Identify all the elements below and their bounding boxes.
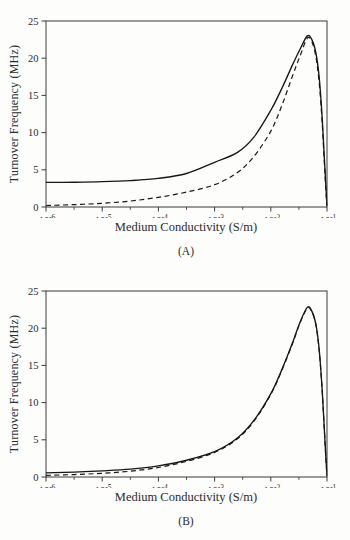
- dashed-curve: [46, 308, 327, 477]
- y-axis-label: Turnover Frequency (MHz): [7, 45, 22, 183]
- plot-border: [46, 291, 327, 477]
- x-tick-label: 10-6: [39, 483, 56, 489]
- x-tick-label: 10-3: [207, 483, 224, 489]
- x-tick-label: 10-1: [320, 483, 337, 489]
- x-tick-label: 10-3: [207, 213, 224, 219]
- x-tick-label: 10-4: [151, 483, 168, 489]
- y-tick-label: 10: [28, 127, 39, 138]
- figure-caption: (B): [178, 515, 193, 527]
- y-tick-label: 25: [28, 16, 39, 27]
- plot-border: [46, 21, 327, 207]
- y-tick-label: 20: [28, 323, 39, 334]
- x-tick-label: 10-2: [263, 483, 280, 489]
- figure-caption: (A): [178, 245, 194, 257]
- x-tick-label: 10-1: [320, 213, 337, 219]
- x-tick-label: 10-5: [95, 483, 112, 489]
- solid-curve: [46, 35, 327, 205]
- figure-a: 051015202510-610-510-410-310-210-1 Turno…: [0, 0, 350, 270]
- x-tick-label: 10-4: [151, 213, 168, 219]
- dashed-curve: [46, 37, 327, 206]
- x-axis-label: Medium Conductivity (S/m): [115, 490, 257, 505]
- y-tick-label: 5: [33, 164, 38, 175]
- chart-plot-b: 051015202510-610-510-410-310-210-1: [0, 270, 350, 488]
- x-tick-label: 10-5: [95, 213, 112, 219]
- y-tick-label: 25: [28, 286, 39, 297]
- x-axis-label: Medium Conductivity (S/m): [115, 220, 257, 235]
- y-tick-label: 15: [28, 90, 39, 101]
- solid-curve: [46, 307, 327, 476]
- y-tick-label: 15: [28, 360, 39, 371]
- figure-b: 051015202510-610-510-410-310-210-1 Turno…: [0, 270, 350, 540]
- y-tick-label: 5: [33, 434, 38, 445]
- x-tick-label: 10-2: [263, 213, 280, 219]
- chart-plot-a: 051015202510-610-510-410-310-210-1: [0, 0, 350, 218]
- y-tick-label: 20: [28, 53, 39, 64]
- y-tick-label: 0: [33, 202, 38, 213]
- y-tick-label: 0: [33, 472, 38, 483]
- y-axis-label: Turnover Frequency (MHz): [7, 315, 22, 453]
- y-tick-label: 10: [28, 397, 39, 408]
- x-tick-label: 10-6: [39, 213, 56, 219]
- page: 051015202510-610-510-410-310-210-1 Turno…: [0, 0, 350, 540]
